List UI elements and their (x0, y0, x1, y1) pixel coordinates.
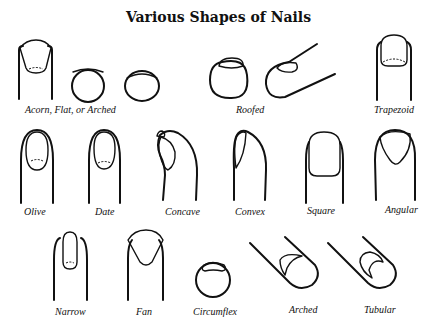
roofed-crosssection-illustration (210, 58, 247, 98)
label-fan: Fan (136, 306, 152, 317)
circumflex-crosssection-illustration (196, 263, 230, 298)
concave-finger-illustration (157, 131, 197, 200)
label-circumflex: Circumflex (193, 306, 237, 317)
label-angular: Angular (385, 204, 418, 215)
trapezoid-finger-illustration (377, 35, 411, 100)
label-tubular: Tubular (364, 304, 396, 315)
label-roofed: Roofed (236, 104, 264, 115)
fan-finger-illustration (128, 230, 163, 300)
arched-side-illustration (250, 237, 318, 288)
date-finger-illustration (89, 130, 120, 203)
convex-finger-illustration (234, 131, 266, 200)
roofed-side-illustration (266, 44, 335, 97)
olive-finger-illustration (21, 130, 53, 203)
label-arched: Arched (289, 304, 318, 315)
acorn-crosssection-illustration-1 (72, 69, 104, 102)
label-narrow: Narrow (55, 306, 86, 317)
angular-finger-illustration (375, 130, 415, 200)
acorn-finger-illustration (19, 40, 52, 99)
acorn-crosssection-illustration-2 (125, 71, 159, 101)
tubular-side-illustration (328, 237, 396, 288)
narrow-finger-illustration (54, 232, 87, 300)
label-trapezoid: Trapezoid (374, 104, 414, 115)
label-concave: Concave (165, 206, 200, 217)
label-date: Date (95, 206, 114, 217)
label-square: Square (307, 205, 335, 216)
label-convex: Convex (235, 206, 265, 217)
nail-shapes-illustration (0, 0, 437, 327)
label-acorn-flat-arched: Acorn, Flat, or Arched (25, 104, 116, 115)
square-finger-illustration (306, 132, 343, 203)
label-olive: Olive (24, 206, 46, 217)
